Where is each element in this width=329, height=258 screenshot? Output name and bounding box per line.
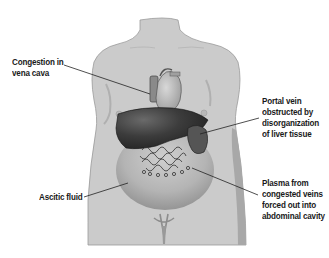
label-line: vena cava (12, 68, 64, 79)
label-line: Congestion in (12, 57, 64, 68)
label-plasma: Plasma from congested veins forced out i… (262, 178, 325, 222)
label-line: Ascitic fluid (39, 192, 83, 203)
label-line: Plasma from (262, 178, 325, 189)
label-line: forced out into (262, 200, 325, 211)
label-line: disorganization (262, 118, 319, 129)
label-line: congested veins (262, 189, 325, 200)
label-portal-vein: Portal vein obstructed by disorganizatio… (262, 96, 319, 140)
label-ascitic-fluid: Ascitic fluid (39, 192, 83, 203)
label-line: Portal vein (262, 96, 319, 107)
label-vena-cava: Congestion in vena cava (12, 57, 64, 79)
label-line: of liver tissue (262, 129, 319, 140)
diagram-canvas: Congestion in vena cava Portal vein obst… (0, 0, 329, 258)
label-line: abdominal cavity (262, 211, 325, 222)
label-line: obstructed by (262, 107, 319, 118)
